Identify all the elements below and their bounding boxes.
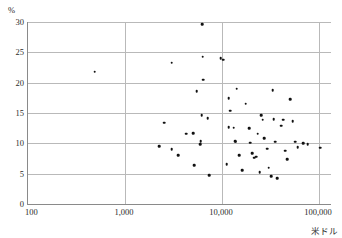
- data-point: [201, 23, 204, 26]
- y-axis: 051015202530: [0, 22, 24, 204]
- x-axis-tick-label: 1,000: [114, 208, 133, 217]
- gridline-horizontal: [28, 52, 331, 53]
- data-point: [276, 177, 279, 180]
- data-point: [282, 118, 285, 121]
- data-point: [163, 121, 166, 124]
- data-point: [200, 114, 203, 117]
- y-axis-tick-label: 20: [2, 79, 24, 88]
- data-point: [267, 166, 270, 169]
- data-point: [262, 118, 265, 121]
- data-point: [258, 171, 261, 174]
- data-point: [319, 146, 322, 149]
- data-point: [222, 58, 225, 61]
- data-point: [170, 148, 173, 151]
- gridline-horizontal: [28, 143, 331, 144]
- data-point: [297, 146, 300, 149]
- gridline-horizontal: [28, 22, 331, 23]
- x-axis-tick-label: 100: [25, 208, 38, 217]
- data-point: [192, 132, 195, 135]
- data-point: [177, 154, 180, 157]
- data-point: [248, 127, 251, 130]
- x-axis-tick-label: 100,000: [304, 208, 332, 217]
- data-point: [289, 98, 292, 101]
- data-point: [206, 117, 209, 120]
- y-axis-tick-label: 0: [2, 200, 24, 209]
- data-point: [170, 61, 173, 64]
- y-axis-unit-label: %: [8, 6, 15, 15]
- data-point: [263, 137, 266, 140]
- data-point: [202, 78, 205, 81]
- scatter-chart: % 051015202530 1001,00010,000100,000 米ドル: [0, 0, 342, 238]
- gridline-horizontal: [28, 83, 331, 84]
- data-point: [280, 124, 283, 127]
- data-point: [284, 149, 287, 152]
- gridline-horizontal: [28, 113, 331, 114]
- data-point: [202, 55, 205, 58]
- data-point: [251, 152, 254, 155]
- data-point: [193, 164, 196, 167]
- data-point: [199, 143, 202, 146]
- data-point: [234, 140, 237, 143]
- data-point: [260, 114, 263, 117]
- data-point: [94, 70, 97, 73]
- x-axis-tick-label: 10,000: [209, 208, 232, 217]
- data-point: [274, 140, 277, 143]
- gridline-vertical: [125, 22, 126, 204]
- plot-area: [27, 22, 331, 205]
- data-point: [226, 163, 229, 166]
- gridline-horizontal: [28, 174, 331, 175]
- data-point: [249, 141, 252, 144]
- y-axis-tick-label: 5: [2, 170, 24, 179]
- gridline-vertical: [319, 22, 320, 204]
- data-point: [235, 87, 238, 90]
- data-point: [266, 147, 269, 150]
- data-point: [302, 142, 305, 145]
- data-point: [229, 109, 232, 112]
- y-axis-tick-label: 25: [2, 48, 24, 57]
- data-point: [158, 145, 161, 148]
- data-point: [306, 143, 309, 146]
- data-point: [255, 155, 258, 158]
- data-point: [286, 158, 289, 161]
- data-point: [195, 90, 198, 93]
- data-point: [272, 118, 275, 121]
- y-axis-tick-label: 10: [2, 139, 24, 148]
- data-point: [227, 97, 230, 100]
- y-axis-tick-label: 30: [2, 18, 24, 27]
- data-point: [227, 126, 230, 129]
- data-point: [208, 174, 211, 177]
- data-point: [244, 103, 247, 106]
- x-axis-unit-label: 米ドル: [311, 227, 338, 236]
- data-point: [257, 132, 260, 135]
- data-point: [238, 154, 241, 157]
- y-axis-tick-label: 15: [2, 109, 24, 118]
- data-point: [270, 175, 273, 178]
- data-point: [292, 120, 295, 123]
- gridline-vertical: [222, 22, 223, 204]
- data-point: [294, 140, 297, 143]
- data-point: [241, 169, 244, 172]
- data-point: [271, 89, 274, 92]
- data-point: [185, 132, 188, 135]
- data-point: [232, 126, 235, 129]
